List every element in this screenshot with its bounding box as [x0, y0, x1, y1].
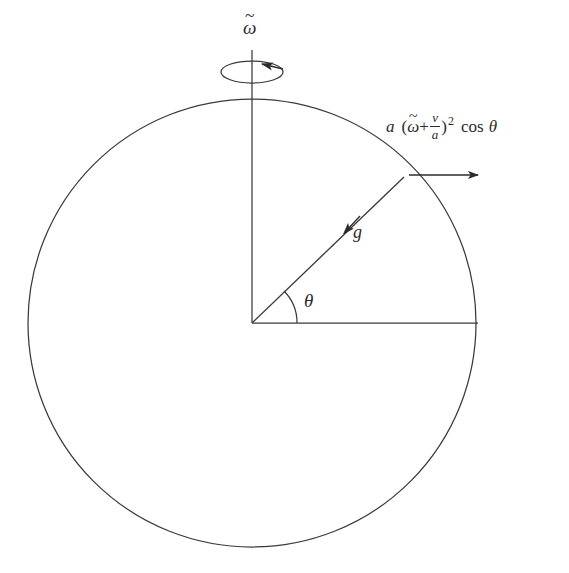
physics-diagram-figure: ~ ω g θ a ( ~ ω + v a ) 2 cos θ — [0, 0, 569, 573]
fraction-denominator: a — [430, 126, 441, 142]
gravity-label: g — [353, 223, 362, 241]
expression-velocity-over-radius-fraction: v a — [430, 111, 441, 141]
theta-angle-arc — [284, 291, 297, 323]
expression-plus-sign: + — [419, 118, 429, 135]
expression-omega-tilde-accent: ~ — [409, 108, 417, 124]
expression-a-coefficient: a — [386, 118, 395, 135]
fraction-numerator: v — [430, 111, 440, 126]
tilted-radius-line — [252, 177, 404, 323]
omega-tilde-accent: ~ — [245, 7, 254, 24]
spin-axis-omega-label: ~ ω — [243, 18, 256, 37]
theta-angle-label: θ — [304, 291, 313, 310]
diagram-canvas — [0, 0, 569, 573]
expression-cosine-function: cos — [461, 118, 484, 135]
expression-close-paren: ) — [441, 118, 447, 135]
expression-exponent: 2 — [448, 115, 454, 127]
centripetal-acceleration-expression: a ( ~ ω + v a ) 2 cos θ — [386, 111, 497, 141]
expression-theta-symbol: θ — [489, 118, 497, 135]
